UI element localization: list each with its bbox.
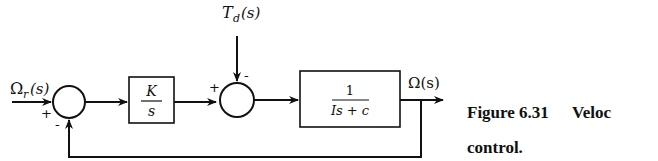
summing-junction-1 <box>53 86 85 118</box>
block-diagram: Ω r (s) + - K s + - T d (s) 1 Is + c Ω(s… <box>0 0 658 161</box>
controller-denominator: s <box>148 103 155 119</box>
summing-junction-2 <box>220 83 254 117</box>
caption-title-line2: control. <box>467 138 523 157</box>
input-omega: Ω <box>10 79 23 98</box>
sum2-minus: - <box>244 68 249 83</box>
disturbance-arg: (s) <box>241 4 261 22</box>
disturbance-sub: d <box>233 12 240 25</box>
input-arg: (s) <box>30 80 50 98</box>
sum1-plus: + <box>41 106 52 121</box>
caption-title-line1: Veloc <box>572 103 611 122</box>
input-sub: r <box>23 88 29 101</box>
plant-block <box>300 71 400 127</box>
controller-numerator: K <box>145 83 158 99</box>
plant-numerator: 1 <box>346 83 354 98</box>
plant-denominator: Is + c <box>330 103 370 118</box>
figure-number: Figure 6.31 <box>467 103 549 122</box>
output-label: Ω(s) <box>408 74 440 92</box>
sum1-minus: - <box>55 117 60 132</box>
sum2-plus: + <box>209 80 220 95</box>
